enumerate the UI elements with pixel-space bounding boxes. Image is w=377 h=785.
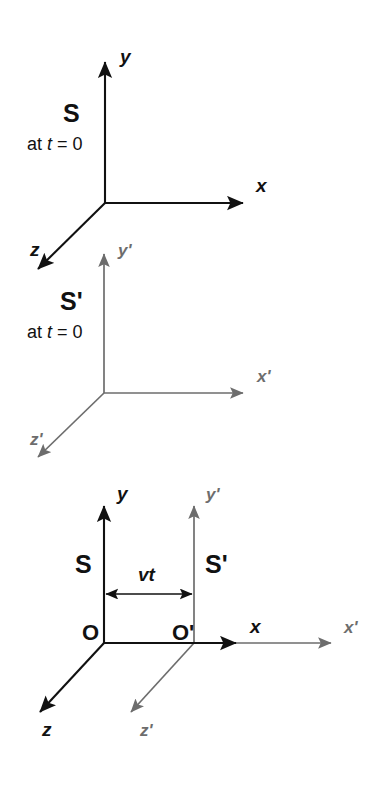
panel-frame-s-prime: y' x' z' S' at t = 0 xyxy=(27,241,271,457)
sprime-z-axis xyxy=(38,393,104,457)
combined-s-x-axis-label: x xyxy=(249,616,262,637)
s-time-label: at t = 0 xyxy=(27,134,83,154)
combined-sprime-x-axis-label: x' xyxy=(343,618,358,637)
s-y-axis-label: y xyxy=(119,46,132,67)
origin-label-o-prime: O' xyxy=(172,620,194,645)
panel-frame-s: y x z S at t = 0 xyxy=(27,46,268,269)
combined-s-z-axis-label: z xyxy=(41,719,52,740)
sprime-z-axis-label: z' xyxy=(29,430,44,449)
panel-combined-frames: vt y x z y' x' z' S S' O O' xyxy=(40,483,358,740)
sprime-frame-label: S' xyxy=(60,287,83,315)
combined-sprime-z-axis xyxy=(131,643,194,712)
s-time-rest: = 0 xyxy=(52,134,83,154)
origin-label-o: O xyxy=(82,620,99,645)
sprime-time-rest: = 0 xyxy=(52,322,83,342)
reference-frames-diagram: y x z S at t = 0 y' x' z' S' at t = 0 xyxy=(0,0,377,785)
s-frame-label: S xyxy=(63,99,80,127)
combined-s-frame-label: S xyxy=(75,550,92,578)
combined-sprime-y-axis-label: y' xyxy=(205,485,220,504)
combined-s-z-axis xyxy=(40,643,104,712)
s-z-axis-label: z xyxy=(29,239,40,260)
s-x-axis-label: x xyxy=(255,175,268,196)
s-z-axis xyxy=(38,203,105,269)
physics-diagram-figure: y x z S at t = 0 y' x' z' S' at t = 0 xyxy=(0,0,377,785)
combined-sprime-frame-label: S' xyxy=(205,550,228,578)
combined-sprime-z-axis-label: z' xyxy=(139,721,154,740)
displacement-label: vt xyxy=(138,564,156,585)
combined-s-y-axis-label: y xyxy=(116,483,129,504)
sprime-time-label: at t = 0 xyxy=(27,322,83,342)
sprime-time-prefix: at xyxy=(27,322,47,342)
s-time-prefix: at xyxy=(27,134,47,154)
sprime-y-axis-label: y' xyxy=(117,241,132,260)
sprime-x-axis-label: x' xyxy=(256,367,271,386)
